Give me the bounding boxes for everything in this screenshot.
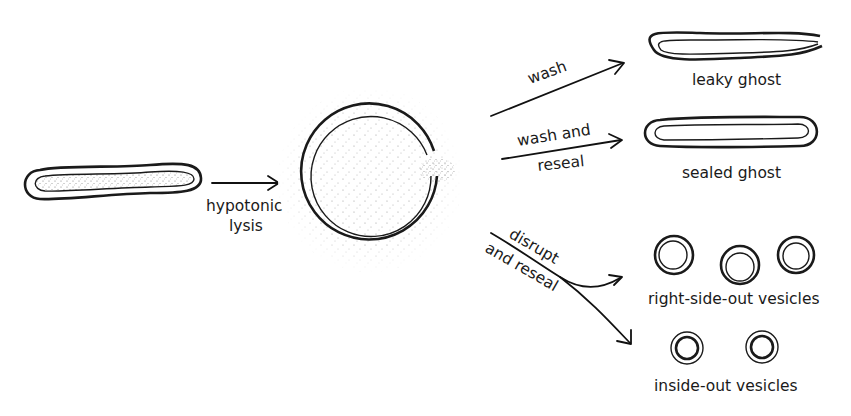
label-reseal: reseal: [537, 152, 586, 175]
label-sealed-ghost: sealed ghost: [682, 164, 781, 182]
arrow-disrupt-reseal: [491, 233, 631, 344]
label-leaky-ghost: leaky ghost: [692, 71, 781, 89]
lysed-cell-icon: [278, 88, 462, 272]
label-wash: wash: [525, 57, 569, 88]
right-side-out-vesicles-icon: [655, 236, 814, 284]
inside-out-vesicles-icon: [671, 331, 778, 364]
diagram-canvas: hypotonic lysis wash leaky ghost wash an…: [0, 0, 851, 416]
label-right-side-out-vesicles: right-side-out vesicles: [648, 290, 820, 308]
sealed-ghost-icon: [645, 117, 817, 147]
label-hypotonic: hypotonic: [206, 197, 283, 215]
label-wash-and: wash and: [516, 121, 592, 150]
leaky-ghost-icon: [650, 32, 822, 59]
intact-cell-icon: [25, 164, 201, 199]
label-lysis: lysis: [229, 217, 263, 235]
arrow-hypotonic-lysis: [212, 176, 279, 190]
label-inside-out-vesicles: inside-out vesicles: [654, 377, 798, 395]
